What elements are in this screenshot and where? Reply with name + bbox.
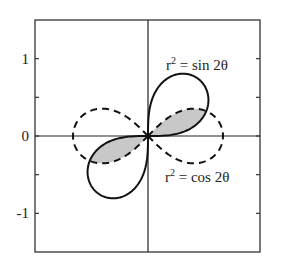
y-tick-labels: 10-1 <box>17 51 30 222</box>
chart-canvas: 10-1 r2 = sin 2θ r2 = cos 2θ <box>0 0 281 270</box>
y-tick-label: -1 <box>17 205 30 221</box>
cos-curve-label: r2 = cos 2θ <box>165 167 229 185</box>
y-tick-label: 1 <box>22 51 30 67</box>
sin-curve-label: r2 = sin 2θ <box>166 55 228 73</box>
y-tick-label: 0 <box>22 128 30 144</box>
